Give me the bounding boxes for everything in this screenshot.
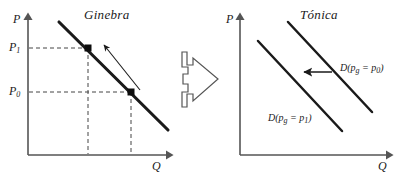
diagram-canvas bbox=[0, 0, 403, 180]
equals-p0: = bbox=[360, 62, 372, 73]
right-panel-title: Tónica bbox=[300, 8, 338, 21]
left-y-axis-label: P bbox=[13, 13, 20, 25]
right-y-axis-label: P bbox=[226, 13, 233, 25]
price-sub-p0: 0 bbox=[376, 66, 380, 75]
gin-demand-curve bbox=[59, 22, 168, 130]
figure-container: Ginebra P Q P1 P0 Tónica P Q D(pg = p0) … bbox=[0, 0, 403, 180]
right-x-axis-label: Q bbox=[378, 160, 387, 172]
pg-main-p1: p bbox=[279, 112, 284, 123]
tonic-demand-curve-p0-label: D(pg = p0) bbox=[340, 63, 384, 73]
close-paren-p0: ) bbox=[380, 62, 383, 73]
tick-label-p1: P1 bbox=[9, 41, 20, 53]
right-panel-group bbox=[240, 14, 392, 155]
pg-main-p0: p bbox=[351, 62, 356, 73]
pg-sub-p0: g bbox=[356, 66, 360, 75]
tick-label-p0: P0 bbox=[9, 85, 20, 97]
tick-p0-sub: 0 bbox=[16, 90, 20, 99]
pg-sub-p1: g bbox=[284, 116, 288, 125]
equals-p1: = bbox=[288, 112, 300, 123]
close-paren-p1: ) bbox=[308, 112, 311, 123]
left-panel-group bbox=[28, 14, 172, 155]
left-x-axis-label: Q bbox=[152, 160, 161, 172]
block-arrow-right bbox=[182, 52, 218, 107]
point-p1 bbox=[85, 45, 92, 52]
point-p0 bbox=[128, 89, 135, 96]
tick-p1-sub: 1 bbox=[16, 46, 20, 55]
price-sub-p1: 1 bbox=[304, 116, 308, 125]
tonic-demand-curve-p1-label: D(pg = p1) bbox=[268, 113, 312, 123]
left-panel-title: Ginebra bbox=[84, 8, 129, 21]
